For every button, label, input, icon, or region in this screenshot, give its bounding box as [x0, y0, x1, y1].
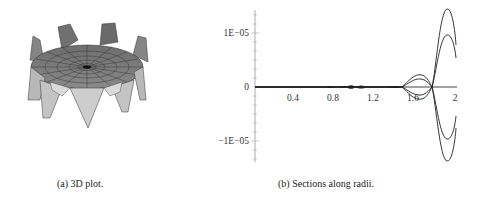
3d-surface-plot [0, 0, 200, 160]
x-tick-label: 2 [453, 93, 458, 103]
3d-plot-panel [0, 0, 200, 160]
caption-3d-plot: (a) 3D plot. [57, 178, 103, 189]
caption-sections: (b) Sections along radii. [278, 178, 374, 189]
curve-inner-lower [255, 87, 456, 139]
x-tick-label: 1.2 [367, 93, 379, 103]
sections-chart-panel: 1E−05 0 −1E−05 0.4 0.8 1.2 1.6 2 [200, 0, 477, 170]
curve-outer-upper [255, 9, 456, 87]
curve-inner-upper [255, 35, 456, 87]
y-tick-label: −1E−05 [218, 136, 249, 146]
y-tick-label: 1E−05 [224, 28, 250, 38]
x-tick-label: 0.8 [327, 93, 339, 103]
y-tick-label: 0 [244, 82, 249, 92]
x-tick-label: 0.4 [287, 93, 299, 103]
section-curves [255, 9, 456, 161]
sections-line-chart: 1E−05 0 −1E−05 0.4 0.8 1.2 1.6 2 [200, 0, 477, 170]
curve-outer-lower [255, 87, 456, 161]
